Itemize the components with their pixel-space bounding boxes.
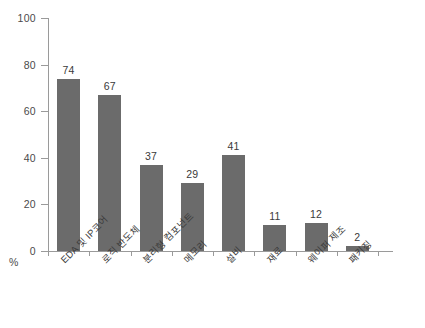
- y-tick-20: [41, 204, 48, 205]
- x-tick: [48, 251, 49, 256]
- bar: [57, 79, 80, 251]
- x-axis-line: [48, 251, 393, 252]
- bar-value-label: 67: [104, 80, 116, 92]
- x-tick: [89, 251, 90, 256]
- y-tick-40: [41, 158, 48, 159]
- x-tick: [254, 251, 255, 256]
- bar-value-label: 41: [228, 140, 240, 152]
- bar-value-label: 29: [186, 168, 198, 180]
- bar-value-label: 74: [63, 64, 75, 76]
- y-tick-0: [41, 251, 48, 252]
- y-axis-label: 20: [0, 198, 36, 210]
- x-tick: [296, 251, 297, 256]
- x-tick: [213, 251, 214, 256]
- y-axis-label: 100: [0, 12, 36, 24]
- x-tick: [172, 251, 173, 256]
- y-tick-80: [41, 65, 48, 66]
- y-tick-100: [41, 18, 48, 19]
- bar-chart: 020406080100 % 746737294111122 EDA 및 IP코…: [0, 0, 425, 328]
- bar: [222, 155, 245, 251]
- x-tick: [337, 251, 338, 256]
- y-axis-unit-label: %: [9, 256, 18, 268]
- x-tick: [378, 251, 379, 256]
- bar-value-label: 11: [269, 210, 280, 222]
- x-tick: [131, 251, 132, 256]
- bar-value-label: 37: [145, 150, 157, 162]
- bar-value-label: 12: [310, 208, 322, 220]
- y-axis-label: 80: [0, 59, 36, 71]
- y-axis-label: 40: [0, 152, 36, 164]
- y-tick-60: [41, 111, 48, 112]
- y-axis-label: 60: [0, 105, 36, 117]
